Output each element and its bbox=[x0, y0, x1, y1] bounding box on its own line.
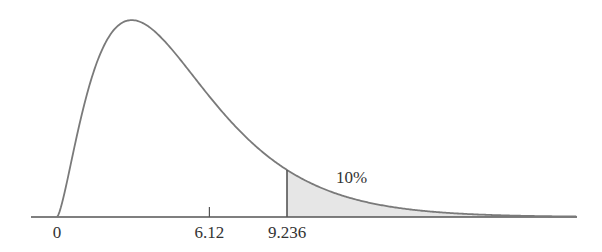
tick-label-9-236: 9.236 bbox=[268, 223, 306, 242]
tick-label-0: 0 bbox=[53, 223, 62, 242]
chi-square-chart: 0 6.12 9.236 10% bbox=[0, 0, 602, 252]
tail-percent-label: 10% bbox=[336, 168, 367, 187]
shaded-tail-region bbox=[287, 170, 577, 217]
tick-label-6-12: 6.12 bbox=[195, 223, 225, 242]
